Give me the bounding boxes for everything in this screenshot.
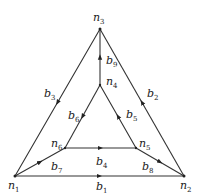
- node-n1: [14, 175, 17, 178]
- node-label-n1: n1: [8, 180, 20, 194]
- branch-label-b7: b7: [51, 161, 63, 175]
- node-label-n3: n3: [93, 12, 105, 26]
- branch-label-b2: b2: [147, 88, 159, 102]
- node-label-n6: n6: [51, 138, 63, 152]
- branch-label-b4: b4: [96, 156, 108, 170]
- node-n5: [135, 147, 137, 149]
- node-n3: [99, 28, 102, 31]
- branch-label-b1: b1: [96, 181, 108, 194]
- branch-b3: [15, 29, 100, 176]
- branch-label-b3: b3: [44, 88, 56, 102]
- node-label-n2: n2: [180, 180, 192, 194]
- branch-b2: [100, 29, 184, 176]
- branch-label-b8: b8: [142, 161, 154, 175]
- node-n4: [99, 84, 101, 86]
- branch-label-b9: b9: [106, 55, 118, 69]
- node-label-n4: n4: [106, 76, 118, 90]
- node-label-n5: n5: [139, 138, 151, 152]
- node-n6: [64, 147, 66, 149]
- branch-label-b5: b5: [126, 109, 138, 123]
- branch-label-b6: b6: [68, 110, 80, 124]
- node-n2: [183, 175, 186, 178]
